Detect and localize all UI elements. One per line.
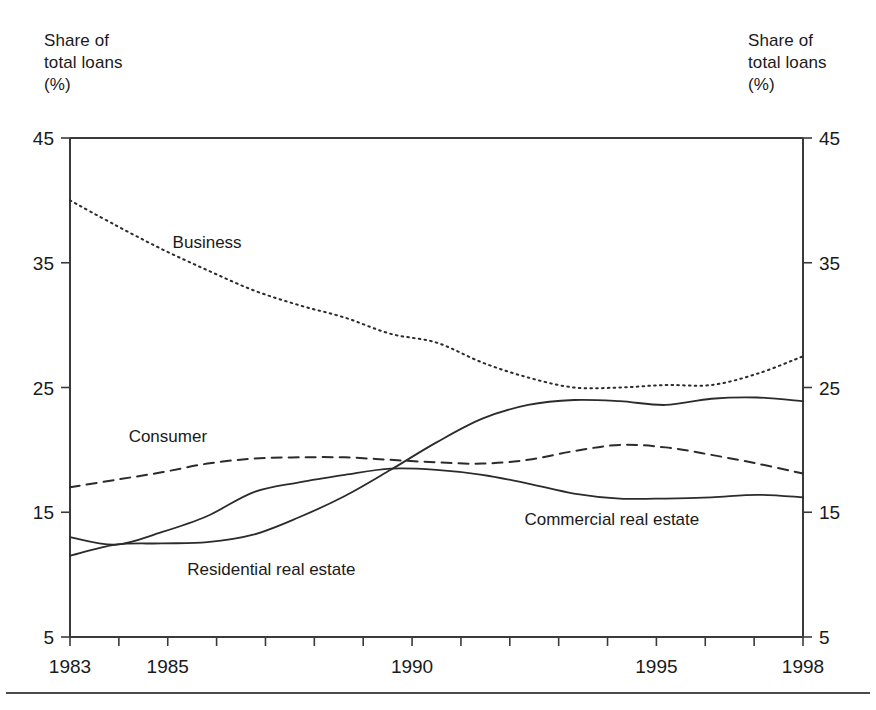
x-tick-label: 1998 bbox=[782, 656, 824, 677]
y2-tick-label: 45 bbox=[819, 128, 840, 149]
footer-divider bbox=[6, 692, 870, 694]
series-line-consumer bbox=[70, 445, 803, 488]
series-label-commercial-real-estate: Commercial real estate bbox=[524, 510, 699, 529]
y2-tick-label: 35 bbox=[819, 253, 840, 274]
series-line-residential-real-estate bbox=[70, 397, 803, 556]
y-tick-label: 15 bbox=[33, 502, 54, 523]
right-axis-caption: Share of total loans (%) bbox=[748, 30, 827, 96]
left-axis-caption: Share of total loans (%) bbox=[44, 30, 123, 96]
y-tick-label: 35 bbox=[33, 253, 54, 274]
series-group bbox=[70, 200, 803, 556]
y-tick-label: 25 bbox=[33, 378, 54, 399]
y-tick-label: 5 bbox=[43, 627, 54, 648]
series-label-residential-real-estate: Residential real estate bbox=[187, 560, 355, 579]
series-line-commercial-real-estate bbox=[70, 468, 803, 544]
x-tick-label: 1985 bbox=[147, 656, 189, 677]
x-tick-label: 1983 bbox=[49, 656, 91, 677]
series-label-business: Business bbox=[173, 233, 242, 252]
x-tick-label: 1995 bbox=[635, 656, 677, 677]
axes-group: 51525354551525354519831985199019951998 bbox=[33, 128, 840, 677]
y-tick-label: 45 bbox=[33, 128, 54, 149]
series-label-consumer: Consumer bbox=[129, 427, 208, 446]
y2-tick-label: 5 bbox=[819, 627, 830, 648]
y2-tick-label: 25 bbox=[819, 378, 840, 399]
line-chart-plot: 51525354551525354519831985199019951998 B… bbox=[0, 0, 876, 710]
series-line-business bbox=[70, 200, 803, 388]
x-tick-label: 1990 bbox=[391, 656, 433, 677]
figure-container: Share of total loans (%) Share of total … bbox=[0, 0, 876, 710]
series-labels-group: BusinessConsumerResidential real estateC… bbox=[129, 233, 700, 579]
y2-tick-label: 15 bbox=[819, 502, 840, 523]
